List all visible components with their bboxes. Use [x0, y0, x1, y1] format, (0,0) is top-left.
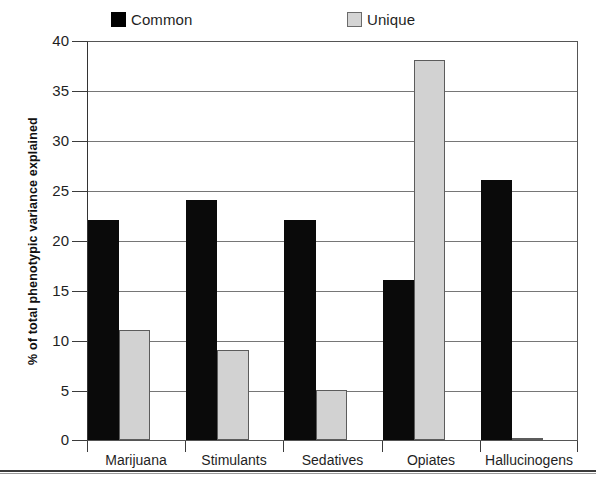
y-tick-mark [72, 241, 87, 242]
bar-unique-hallucinogens [512, 438, 543, 440]
black-square-swatch-icon [111, 12, 126, 27]
y-tick-label: 10 [52, 331, 69, 351]
y-tick-10: 10 [0, 341, 87, 342]
x-axis-label-marijuana: Marijuana [87, 450, 185, 470]
bar-unique-opiates [414, 60, 445, 440]
y-tick-label: 15 [52, 281, 69, 301]
y-tick-25: 25 [0, 191, 87, 192]
bar-chart-figure: Common Unique % of total phenotypic vari… [0, 0, 596, 480]
y-tick-mark [72, 291, 87, 292]
y-tick-mark [72, 191, 87, 192]
x-axis-label-stimulants: Stimulants [185, 450, 283, 470]
y-tick-20: 20 [0, 241, 87, 242]
y-tick-label: 40 [52, 31, 69, 51]
legend-label-common: Common [131, 11, 192, 28]
y-tick-label: 30 [52, 131, 69, 151]
bar-unique-marijuana [119, 330, 150, 440]
y-tick-label: 5 [61, 381, 69, 401]
bar-common-stimulants [186, 200, 217, 440]
gray-square-swatch-icon [347, 12, 362, 27]
bar-unique-stimulants [217, 350, 248, 440]
y-tick-mark [72, 440, 87, 441]
y-tick-0: 0 [0, 440, 87, 441]
y-tick-label: 25 [52, 181, 69, 201]
legend-label-unique: Unique [367, 11, 415, 28]
y-tick-40: 40 [0, 41, 87, 42]
y-tick-label: 0 [61, 430, 69, 450]
legend-item-common: Common [111, 8, 192, 30]
y-tick-mark [72, 41, 87, 42]
x-axis-label-opiates: Opiates [382, 450, 480, 470]
y-tick-mark [72, 341, 87, 342]
figure-bottom-rule [0, 470, 596, 472]
y-tick-30: 30 [0, 141, 87, 142]
y-axis: 40 35 30 25 20 15 10 5 [0, 41, 87, 441]
x-axis-label-hallucinogens: Hallucinogens [480, 450, 578, 470]
figure-bottom-rule-secondary [0, 473, 596, 474]
chart-legend: Common Unique [0, 8, 596, 34]
y-tick-mark [72, 141, 87, 142]
bar-common-sedatives [284, 220, 315, 440]
y-tick-5: 5 [0, 391, 87, 392]
y-tick-mark [72, 391, 87, 392]
y-tick-35: 35 [0, 91, 87, 92]
bar-common-opiates [383, 280, 414, 440]
bar-unique-sedatives [316, 390, 347, 440]
legend-item-unique: Unique [347, 8, 415, 30]
bar-common-hallucinogens [481, 180, 512, 440]
y-tick-label: 20 [52, 231, 69, 251]
bar-common-marijuana [88, 220, 119, 440]
y-tick-15: 15 [0, 291, 87, 292]
bar-series-container [88, 42, 577, 440]
x-axis-label-sedatives: Sedatives [283, 450, 382, 470]
plot-area [87, 41, 578, 441]
y-tick-label: 35 [52, 81, 69, 101]
y-tick-mark [72, 91, 87, 92]
